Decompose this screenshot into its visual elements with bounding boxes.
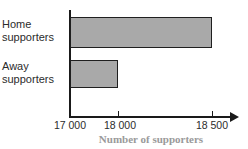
tick-18000	[118, 111, 119, 117]
tick-label-18000: 18 000	[104, 119, 136, 131]
bar-home-supporters	[70, 17, 212, 48]
bar-away-supporters	[70, 60, 118, 88]
tick-17000	[70, 111, 71, 117]
value-axis-title: Number of supporters	[69, 133, 233, 145]
bar-chart: Home supporters Away supporters 17 000 1…	[0, 0, 248, 149]
value-axis-line	[69, 116, 233, 118]
tick-label-17000: 17 000	[54, 119, 86, 131]
value-axis-arrow-icon	[230, 112, 239, 122]
plot-area: 17 000 18 000 18 500 Number of supporter…	[0, 0, 248, 149]
tick-18500	[212, 111, 213, 117]
tick-label-18500: 18 500	[196, 119, 228, 131]
